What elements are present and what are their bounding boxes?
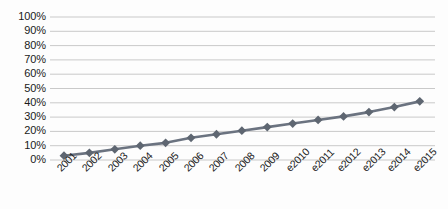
data-point-marker <box>237 126 246 135</box>
data-point-marker <box>415 97 424 106</box>
data-point-marker <box>339 112 348 121</box>
data-point-markers <box>60 97 425 160</box>
y-axis-tick-label: 10% <box>0 140 46 151</box>
y-axis-tick-label: 0% <box>0 154 46 165</box>
chart-container: 100%90%80%70%60%50%40%30%20%10%0% 200120… <box>0 0 448 209</box>
line-chart-plot <box>0 0 448 209</box>
data-point-marker <box>187 133 196 142</box>
y-axis-tick-label: 40% <box>0 97 46 108</box>
y-axis-tick-label: 70% <box>0 54 46 65</box>
y-axis-tick-label: 20% <box>0 125 46 136</box>
gridlines-group <box>50 17 435 160</box>
data-point-marker <box>365 108 374 117</box>
y-axis-tick-label: 80% <box>0 40 46 51</box>
y-axis-tick-label: 30% <box>0 111 46 122</box>
y-axis-tick-label: 100% <box>0 11 46 22</box>
data-point-marker <box>136 141 145 150</box>
data-point-marker <box>390 103 399 112</box>
data-point-marker <box>263 123 272 132</box>
y-axis-tick-label: 90% <box>0 25 46 36</box>
y-axis-tick-label: 50% <box>0 83 46 94</box>
data-point-marker <box>288 119 297 128</box>
y-axis-tick-label: 60% <box>0 68 46 79</box>
